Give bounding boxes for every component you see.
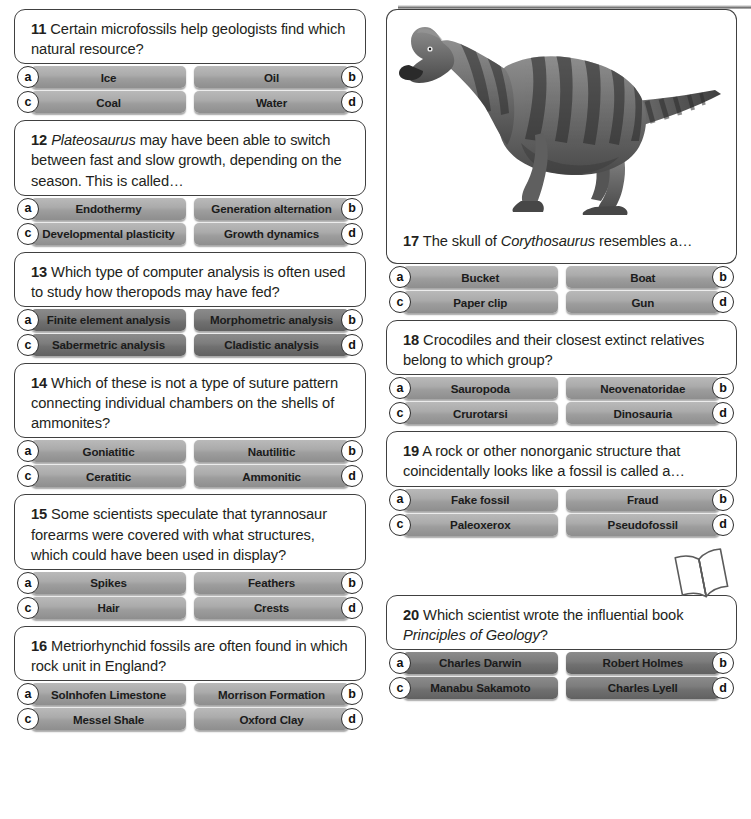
answer-option-d[interactable]: Gun <box>566 291 721 313</box>
answer-letter-a: a <box>17 309 39 331</box>
answer-letter-a: a <box>17 440 39 462</box>
answer-option-c[interactable]: Sabermetric analysis <box>31 334 186 356</box>
left-column: 11 Certain microfossils help geologists … <box>0 0 380 819</box>
answer-option-d[interactable]: Growth dynamics <box>194 223 349 245</box>
answer-option-d[interactable]: Water <box>194 91 349 113</box>
answer-option-a[interactable]: Spikes <box>31 572 186 594</box>
answer-option-c[interactable]: Crurotarsi <box>403 402 558 424</box>
answer-group: aSauropodaNeovenatoridaebcCrurotarsiDino… <box>386 377 737 424</box>
answer-option-a[interactable]: Goniatitic <box>31 440 186 462</box>
question-italic: Corythosaurus <box>501 233 595 249</box>
answer-label: Cladistic analysis <box>224 338 319 351</box>
answer-group: aFinite element analysisMorphometric ana… <box>14 309 366 356</box>
answer-letter-a: a <box>17 683 39 705</box>
answer-label: Solnhofen Limestone <box>51 688 166 701</box>
answer-row: cDevelopmental plasticityGrowth dynamics… <box>14 223 366 245</box>
answer-letter-c: c <box>389 677 411 699</box>
answer-label: Coal <box>96 96 121 109</box>
answer-option-d[interactable]: Pseudofossil <box>566 514 721 536</box>
answer-letter-b: b <box>712 377 734 399</box>
answer-option-c[interactable]: Coal <box>31 91 186 113</box>
answer-option-b[interactable]: Morrison Formation <box>194 683 349 705</box>
answer-label: Finite element analysis <box>47 313 171 326</box>
answer-row: aSolnhofen LimestoneMorrison Formationb <box>14 683 366 705</box>
answer-option-c[interactable]: Ceratitic <box>31 465 186 487</box>
answer-label: Messel Shale <box>73 713 144 726</box>
answer-option-a[interactable]: Solnhofen Limestone <box>31 683 186 705</box>
answer-group: aSpikesFeathersbcHairCrestsd <box>14 572 366 619</box>
answer-label: Neovenatoridae <box>600 382 685 395</box>
answer-label: Hair <box>98 601 120 614</box>
question-body: 18 Crocodiles and their closest extinct … <box>386 320 737 375</box>
answer-label: Sauropoda <box>451 382 510 395</box>
answer-label: Ceratitic <box>86 470 131 483</box>
answer-option-d[interactable]: Crests <box>194 597 349 619</box>
answer-row: cCrurotarsiDinosauriad <box>386 402 737 424</box>
answer-option-a[interactable]: Fake fossil <box>403 489 558 511</box>
answer-label: Oxford Clay <box>239 713 303 726</box>
answer-label: Developmental plasticity <box>42 227 174 240</box>
answer-option-a[interactable]: Ice <box>31 66 186 88</box>
answer-label: Endothermy <box>75 202 141 215</box>
answer-label: Boat <box>630 271 655 284</box>
answer-letter-a: a <box>389 652 411 674</box>
answer-option-b[interactable]: Nautilitic <box>194 440 349 462</box>
answer-letter-a: a <box>389 489 411 511</box>
answer-option-b[interactable]: Robert Holmes <box>566 652 721 674</box>
answer-label: Charles Darwin <box>439 656 521 669</box>
answer-option-a[interactable]: Sauropoda <box>403 377 558 399</box>
answer-option-d[interactable]: Charles Lyell <box>566 677 721 699</box>
answer-row: aSpikesFeathersb <box>14 572 366 594</box>
answer-option-a[interactable]: Endothermy <box>31 198 186 220</box>
question-number: 16 <box>31 638 47 654</box>
answer-label: Bucket <box>461 271 499 284</box>
answer-option-c[interactable]: Manabu Sakamoto <box>403 677 558 699</box>
answer-letter-d: d <box>712 402 734 424</box>
answer-label: Pseudofossil <box>608 518 678 531</box>
question-body: 16 Metriorhynchid fossils are often foun… <box>14 626 366 681</box>
answer-option-d[interactable]: Dinosauria <box>566 402 721 424</box>
answer-option-a[interactable]: Charles Darwin <box>403 652 558 674</box>
answer-letter-d: d <box>341 708 363 730</box>
answer-label: Gun <box>631 296 654 309</box>
answer-row: aEndothermyGeneration alternationb <box>14 198 366 220</box>
question-number: 18 <box>403 332 419 348</box>
right-column: 17 The skull of Corythosaurus resembles … <box>380 0 751 819</box>
answer-option-b[interactable]: Feathers <box>194 572 349 594</box>
answer-label: Sabermetric analysis <box>52 338 165 351</box>
answer-option-d[interactable]: Ammonitic <box>194 465 349 487</box>
answer-label: Robert Holmes <box>602 656 683 669</box>
answer-option-d[interactable]: Cladistic analysis <box>194 334 349 356</box>
answer-option-b[interactable]: Morphometric analysis <box>194 309 349 331</box>
answer-group: aGoniatiticNautiliticbcCeratiticAmmoniti… <box>14 440 366 487</box>
answer-letter-d: d <box>341 334 363 356</box>
answer-option-b[interactable]: Boat <box>566 266 721 288</box>
question-number: 14 <box>31 375 47 391</box>
answer-letter-d: d <box>341 465 363 487</box>
answer-option-b[interactable]: Neovenatoridae <box>566 377 721 399</box>
answer-label: Fake fossil <box>451 493 509 506</box>
answer-option-c[interactable]: Developmental plasticity <box>31 223 186 245</box>
answer-letter-b: b <box>341 66 363 88</box>
answer-option-a[interactable]: Finite element analysis <box>31 309 186 331</box>
answer-option-b[interactable]: Fraud <box>566 489 721 511</box>
answer-option-a[interactable]: Bucket <box>403 266 558 288</box>
answer-option-c[interactable]: Messel Shale <box>31 708 186 730</box>
answer-row: cPaleoxeroxPseudofossild <box>386 514 737 536</box>
answer-option-c[interactable]: Hair <box>31 597 186 619</box>
answer-row: cSabermetric analysisCladistic analysisd <box>14 334 366 356</box>
answer-option-c[interactable]: Paleoxerox <box>403 514 558 536</box>
answer-option-d[interactable]: Oxford Clay <box>194 708 349 730</box>
answer-option-b[interactable]: Oil <box>194 66 349 88</box>
answer-row: cCoalWaterd <box>14 91 366 113</box>
question-card-19: 19 A rock or other nonorganic structure … <box>386 431 737 535</box>
question-text: 15 Some scientists speculate that tyrann… <box>31 504 352 564</box>
answer-letter-c: c <box>17 91 39 113</box>
answer-group: aSolnhofen LimestoneMorrison Formationbc… <box>14 683 366 730</box>
answer-letter-a: a <box>17 198 39 220</box>
answer-row: aIceOilb <box>14 66 366 88</box>
answer-option-b[interactable]: Generation alternation <box>194 198 349 220</box>
answer-label: Manabu Sakamoto <box>430 681 530 694</box>
answer-letter-d: d <box>712 677 734 699</box>
answer-option-c[interactable]: Paper clip <box>403 291 558 313</box>
